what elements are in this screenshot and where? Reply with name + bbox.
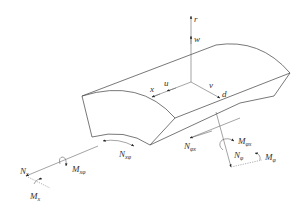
r-label: r — [194, 14, 198, 24]
right-edge-forces: Nφx Mφx Nφ Mφ — [183, 112, 277, 167]
nx-arrow — [26, 146, 98, 176]
x-label: x — [149, 84, 154, 94]
w-label: w — [194, 34, 200, 44]
nphix-label: Nφx — [183, 141, 196, 152]
nxphi-arrow — [103, 140, 134, 146]
shell-near-top-curve — [82, 90, 175, 118]
mphix-label: Mφx — [237, 136, 252, 147]
shell-far-top-curve — [216, 44, 290, 73]
nxphi-label: Nxφ — [118, 149, 132, 160]
shell-body — [82, 44, 290, 145]
mx-dotted-line — [26, 176, 50, 188]
mphi-arrow — [255, 153, 260, 160]
shell-far-diag — [175, 73, 290, 118]
mphi-dotted-line — [231, 160, 262, 167]
mx-label: Mx — [29, 191, 41, 202]
v-label: v — [209, 80, 213, 90]
phi-edge-line — [190, 118, 240, 138]
shell-top-edge — [82, 45, 216, 96]
coordinate-axes: r w u x v d — [149, 14, 227, 99]
shell-near-bottom-curve — [92, 134, 150, 145]
nx-label: Nx — [19, 166, 29, 177]
u-label: u — [164, 78, 169, 88]
shell-far-bottom-edge — [240, 73, 290, 103]
u-arrow — [167, 88, 176, 91]
mxphi-label: Mxφ — [71, 164, 86, 175]
mphi-label: Mφ — [264, 152, 277, 163]
shell-near-right-edge — [150, 118, 175, 145]
left-edge-forces: Nx Mx Mxφ Nxφ — [19, 140, 134, 202]
nphi-label: Nφ — [233, 150, 244, 161]
shell-element-diagram: r w u x v d Nx Mx Mxφ Nxφ Nφx Mφx Nφ Mφ — [0, 0, 303, 208]
mphix-arrow — [220, 139, 234, 150]
shell-near-left-edge — [82, 96, 92, 137]
d-label: d — [222, 89, 227, 99]
mx-arrow — [34, 179, 42, 184]
theta-axis — [191, 82, 220, 98]
x-arrow — [152, 94, 160, 97]
nphix-arrow — [190, 131, 212, 138]
